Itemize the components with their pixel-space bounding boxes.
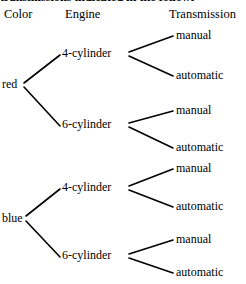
node-engine-blue-6cylinder: 6-cylinder	[62, 249, 111, 261]
edge-b4-to-manual	[129, 169, 173, 186]
node-engine-red-6cylinder: 6-cylinder	[62, 118, 111, 130]
node-color-blue: blue	[2, 212, 23, 224]
node-transmission-red-6cyl-automatic: automatic	[176, 141, 223, 153]
edge-blue-to-4cylinder	[26, 189, 60, 216]
edge-b4-to-automatic	[129, 190, 173, 207]
node-transmission-red-4cyl-automatic: automatic	[176, 69, 223, 81]
edge-r6-to-automatic	[129, 127, 173, 148]
edge-blue-to-6cylinder	[26, 221, 60, 257]
edge-r4-to-automatic	[129, 56, 173, 76]
tree-diagram-figure: transmissions indicated in the followi C…	[0, 0, 246, 284]
edge-b6-to-automatic	[129, 258, 173, 273]
edge-r6-to-manual	[129, 111, 173, 123]
node-engine-red-4cylinder: 4-cylinder	[62, 47, 111, 59]
node-transmission-blue-4cyl-automatic: automatic	[176, 200, 223, 212]
node-color-red: red	[2, 78, 17, 90]
node-transmission-red-4cyl-manual: manual	[176, 29, 211, 41]
node-engine-blue-4cylinder: 4-cylinder	[62, 181, 111, 193]
node-transmission-blue-6cyl-manual: manual	[176, 233, 211, 245]
node-transmission-blue-4cyl-manual: manual	[176, 162, 211, 174]
edge-r4-to-manual	[129, 36, 173, 52]
edge-red-to-4cylinder	[24, 55, 60, 83]
node-transmission-red-6cyl-manual: manual	[176, 104, 211, 116]
edge-b6-to-manual	[129, 240, 173, 254]
edge-red-to-6cylinder	[24, 87, 60, 126]
node-transmission-blue-6cyl-automatic: automatic	[176, 266, 223, 278]
